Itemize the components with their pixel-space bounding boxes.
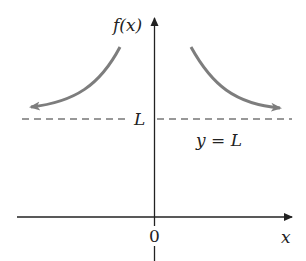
asymptote-equation-label: y = L — [196, 132, 242, 149]
curve-left — [31, 47, 120, 107]
origin-label: 0 — [149, 228, 160, 245]
y-axis-label: f(x) — [113, 17, 142, 34]
x-axis-label: x — [281, 229, 291, 246]
diagram-graphics — [0, 0, 306, 261]
asymptote-diagram: f(x) L y = L 0 x — [0, 0, 306, 261]
curve-right — [191, 47, 280, 108]
asymptote-label: L — [134, 111, 145, 128]
